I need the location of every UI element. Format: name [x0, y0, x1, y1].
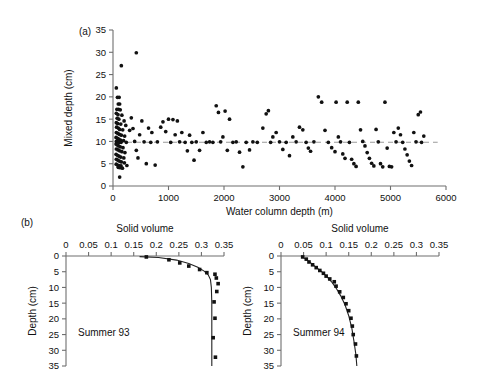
panel-a-data-point: [288, 154, 292, 158]
panel_b_summer93-y-tick-label: 30: [48, 345, 59, 356]
panel_b_summer93-y-tick-label: 20: [48, 313, 59, 324]
panel-a-x-tick-label: 5000: [380, 192, 401, 203]
panel-a-data-point: [180, 131, 184, 135]
panel-a-y-tick-label: 5: [101, 158, 106, 169]
panel-a-y-tick-label: 0: [101, 180, 106, 191]
panel_b_summer94-y-tick-label: 30: [263, 345, 274, 356]
panel-a-data-point: [304, 140, 308, 144]
panel-a-data-point: [117, 95, 121, 99]
panel_b_summer94-data-point: [338, 290, 342, 294]
panel-a-data-point: [223, 109, 227, 113]
panel-a-data-point: [149, 140, 153, 144]
panel_b_summer94-y-tick-label: 5: [269, 266, 274, 277]
panel-a-data-point: [368, 157, 372, 161]
panel-a-data-point: [410, 164, 414, 168]
panel-a-x-axis-label: Water column depth (m): [226, 206, 333, 217]
panel-a-data-point: [221, 135, 225, 139]
panel-a-data-point: [231, 140, 235, 144]
panel-a-data-point: [117, 117, 121, 121]
panel-a-y-tick-label: 10: [95, 136, 106, 147]
panel-a-data-point: [401, 140, 405, 144]
panel-a-data-point: [359, 128, 363, 132]
panel-a-x-tick-label: 2000: [213, 192, 234, 203]
panel-a-data-point: [134, 148, 138, 152]
panel-a-data-point: [320, 100, 324, 104]
panel_b_summer93-data-point: [215, 276, 219, 280]
panel_b_summer93-data-point: [214, 355, 218, 359]
panel-a-data-point: [176, 119, 180, 123]
panel-a-data-point: [396, 126, 400, 130]
panel_b_summer93-title: Solid volume: [116, 223, 174, 234]
panel-a-data-point: [251, 140, 255, 144]
panel_b_summer94-data-point: [324, 274, 328, 278]
panel_b_summer94-x-tick-label: 0: [278, 239, 283, 250]
panel-a-data-point: [167, 117, 171, 121]
panel_b_summer93-data-point: [216, 282, 220, 286]
panel-a-data-point: [133, 140, 137, 144]
panel_b_summer93-x-tick-label: 0: [63, 239, 68, 250]
panel-a-label: (a): [79, 26, 91, 37]
panel-a-data-point: [267, 109, 271, 113]
panel-a-data-point: [278, 140, 282, 144]
panel-a-data-point: [219, 140, 223, 144]
panel-a-data-point: [244, 140, 248, 144]
panel-a-data-point: [412, 131, 416, 135]
panel_b_summer93-y-tick-label: 35: [48, 360, 59, 371]
panel_b_summer94-data-point: [342, 296, 346, 300]
panel-a-data-point: [336, 135, 340, 139]
panel-a-y-tick-label: 20: [95, 91, 106, 102]
panel_b_summer93-data-point: [211, 336, 215, 340]
panel_b_summer93-y-tick-label: 10: [48, 282, 59, 293]
panel-a-y-tick-label: 25: [95, 69, 106, 80]
panel_b_summer93-data-point: [213, 272, 217, 276]
panel-a-data-point: [298, 125, 302, 129]
panel-a-data-point: [217, 111, 221, 115]
panel_b_summer94-y-tick-label: 0: [269, 250, 274, 261]
panel-a-data-point: [129, 116, 133, 120]
panel-a-data-point: [118, 102, 122, 106]
panel_b_summer93-data-point: [187, 264, 191, 268]
panel-a-y-tick-label: 30: [95, 47, 106, 58]
panel-a-data-point: [183, 140, 187, 144]
panel_b_summer94-data-point: [351, 324, 355, 328]
panel-a-data-point: [225, 148, 229, 152]
panel_b_summer94-y-tick-label: 25: [263, 329, 274, 340]
panel_b_summer94-data-point: [307, 260, 311, 264]
panel_b_summer94-data-point: [328, 277, 332, 281]
panel-a-data-point: [114, 86, 118, 90]
panel-a-data-point: [354, 165, 358, 169]
panel-a-y-tick-label: 15: [95, 114, 106, 125]
panel-a-x-tick-label: 6000: [435, 192, 456, 203]
panel-a-data-point: [131, 127, 135, 131]
panel-a-data-point: [119, 133, 123, 137]
panel-a-data-point: [291, 135, 295, 139]
panel-a-data-point: [234, 140, 238, 144]
panel-a-y-tick-label: 35: [95, 24, 106, 35]
panel_b_summer93-fit-curve: [140, 257, 212, 366]
panel-a-data-point: [408, 159, 412, 163]
panel-a-data-point: [343, 157, 347, 161]
panel-a-data-point: [144, 162, 148, 166]
panel_b_summer93-y-tick-label: 25: [48, 329, 59, 340]
panel-a-data-point: [379, 162, 383, 166]
panel-a-data-point: [190, 140, 194, 144]
panel-a-data-point: [121, 146, 125, 150]
panel_b_summer94-data-point: [354, 342, 358, 346]
panel_b_summer93-y-tick-label: 0: [54, 250, 59, 261]
panel_b_summer94-x-tick-label: 0.2: [365, 239, 378, 250]
panel-a-data-point: [124, 140, 128, 144]
panel-a-x-tick-label: 4000: [324, 192, 345, 203]
panel-a-data-point: [284, 140, 288, 144]
figure-container: (a)0510152025303501000200030004000500060…: [0, 0, 483, 376]
panel_b_summer93-data-point: [167, 258, 171, 262]
panel-a-data-point: [307, 146, 311, 150]
panel-a-data-point: [374, 128, 378, 132]
panel_b_summer93-data-point: [205, 271, 209, 275]
panel_b_summer94-data-point: [311, 263, 315, 267]
panel-a-data-point: [124, 124, 128, 128]
panel-a-data-point: [390, 165, 394, 169]
panel-a-data-point: [159, 125, 163, 129]
panel-a-data-point: [161, 120, 165, 124]
panel-a-data-point: [153, 163, 157, 167]
panel_b_summer93-x-tick-label: 0.15: [124, 239, 143, 250]
